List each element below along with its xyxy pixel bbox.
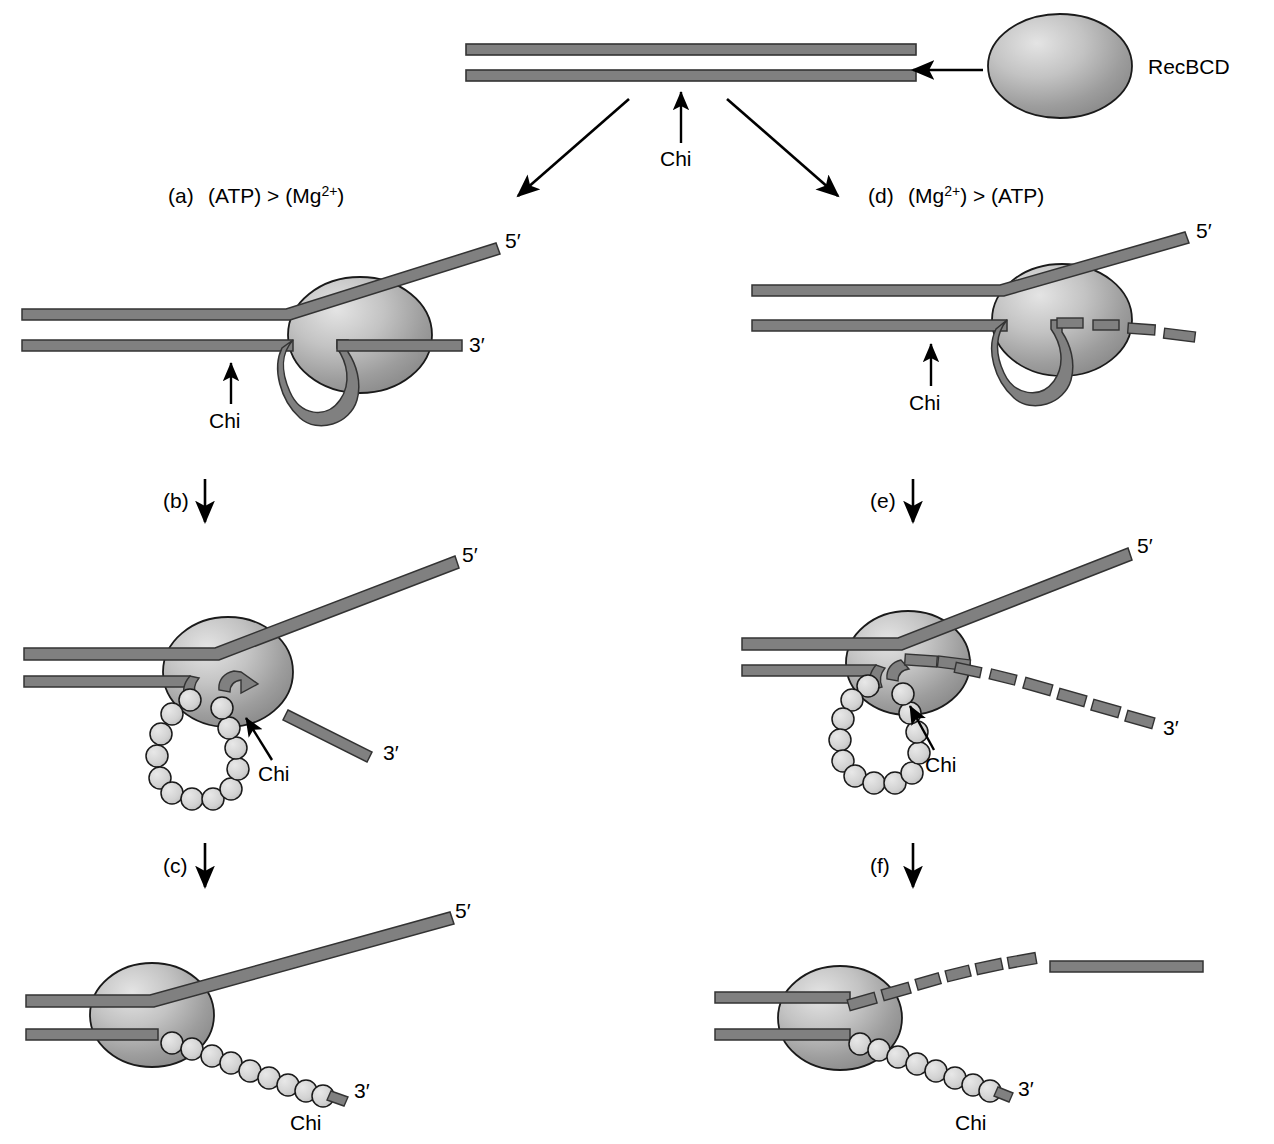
dash-seg — [975, 958, 1003, 974]
panel-e-3prime-label: 3′ — [1163, 716, 1179, 739]
panel-f-3prime-label: 3′ — [1018, 1077, 1034, 1100]
ssb-bead — [181, 788, 203, 810]
recbcd-ellipse — [988, 14, 1132, 118]
panel-a-complex — [22, 243, 500, 426]
panel-f-upper-strand-left — [715, 992, 850, 1003]
figure-canvas: RecBCD Chi (a) (ATP) > (Mg2+) 5′ 3′ Chi … — [0, 0, 1274, 1144]
dash-seg — [945, 965, 971, 981]
panel-f-label: (f) — [870, 854, 890, 877]
ssb-bead — [829, 729, 851, 751]
panel-f-lower-strand-left — [715, 1029, 850, 1040]
panel-c-label: (c) — [163, 854, 188, 877]
ssb-bead — [150, 723, 172, 745]
ssb-bead — [832, 708, 854, 730]
ssb-bead — [211, 697, 233, 719]
panel-e-lower-strand-left — [742, 665, 876, 676]
panel-e-chi-label: Chi — [925, 753, 957, 776]
panel-a-condition: (ATP) > (Mg2+) — [208, 183, 344, 207]
panel-e-degraded-three-prime — [954, 662, 1155, 728]
panel-f-ssb-bead-tail — [849, 1033, 1001, 1102]
ssb-bead — [227, 758, 249, 780]
branch-arrow-left — [518, 99, 629, 196]
panel-a-lower-strand-left — [22, 340, 293, 351]
branch-arrow-right — [727, 99, 838, 196]
panel-f-complex — [715, 953, 1203, 1102]
dash-seg — [1091, 699, 1121, 717]
panel-e-label: (e) — [870, 489, 896, 512]
dash-seg — [1093, 320, 1119, 330]
panel-d-lower-strand-left — [752, 320, 1007, 331]
panel-d-complex — [752, 232, 1195, 406]
panel-e-chi-seg-1 — [905, 654, 938, 667]
panel-c-chi-label: Chi — [290, 1111, 322, 1134]
dash-seg — [989, 669, 1017, 685]
panel-b-label: (b) — [163, 489, 189, 512]
chi-label-top: Chi — [660, 147, 692, 170]
panel-b-ssb-bead-loop — [146, 689, 249, 810]
panel-c-lower-strand-left — [26, 1029, 158, 1040]
ssb-bead — [220, 778, 242, 800]
panel-e-five-prime-strand — [742, 548, 1132, 650]
dash-seg — [1164, 328, 1196, 342]
panel-b-released-three-prime — [283, 710, 372, 762]
ssb-bead — [181, 1038, 203, 1060]
panel-d-five-prime-strand — [752, 232, 1189, 296]
panel-d-chi-label: Chi — [909, 391, 941, 414]
dash-seg — [1128, 323, 1156, 335]
ssb-bead — [901, 762, 923, 784]
ssb-bead — [161, 782, 183, 804]
panel-c-complex — [26, 912, 454, 1107]
top-duplex-dna — [466, 44, 916, 81]
panel-c-five-prime-strand — [26, 912, 454, 1007]
panel-a-prefix: (a) — [168, 184, 194, 207]
dash-seg — [1007, 953, 1036, 969]
panel-b-chi-arrow — [246, 718, 272, 760]
recbcd-label: RecBCD — [1148, 55, 1230, 78]
ssb-bead — [892, 683, 914, 705]
dash-seg — [915, 973, 941, 990]
ssb-bead — [218, 717, 240, 739]
ssb-bead — [225, 737, 247, 759]
panel-d-prefix: (d) — [868, 184, 894, 207]
dash-seg — [1057, 688, 1087, 706]
dna-strand-top-lower — [466, 70, 916, 81]
panel-f-distal-strand — [1050, 961, 1203, 972]
ssb-bead — [863, 772, 885, 794]
panel-a-3prime-label: 3′ — [469, 333, 485, 356]
panel-c-5prime-label: 5′ — [455, 899, 471, 922]
recbcd-chi-diagram: RecBCD Chi (a) (ATP) > (Mg2+) 5′ 3′ Chi … — [0, 0, 1274, 1144]
panel-b-lower-strand-left — [24, 676, 190, 687]
panel-f-chi-label: Chi — [955, 1111, 987, 1134]
ssb-bead — [161, 1032, 183, 1054]
panel-d-5prime-label: 5′ — [1196, 219, 1212, 242]
panel-a-5prime-label: 5′ — [505, 229, 521, 252]
ssb-bead — [179, 689, 201, 711]
panel-c-3prime-label: 3′ — [354, 1079, 370, 1102]
panel-b-five-prime-strand — [24, 556, 459, 660]
panel-b-chi-label: Chi — [258, 762, 290, 785]
panel-b-complex — [24, 556, 459, 810]
panel-b-5prime-label: 5′ — [462, 543, 478, 566]
dash-seg — [1057, 318, 1083, 328]
ssb-bead — [161, 703, 183, 725]
panel-a-chi-label: Chi — [209, 409, 241, 432]
panel-a-five-prime-strand — [22, 243, 500, 320]
ssb-bead — [146, 745, 168, 767]
panel-a-three-prime-strand — [337, 340, 462, 351]
panel-d-condition: (Mg2+) > (ATP) — [908, 183, 1044, 207]
panel-c-ssb-bead-tail — [161, 1032, 334, 1107]
dash-seg — [1023, 677, 1053, 695]
top-recbcd-enzyme — [913, 14, 1132, 118]
panel-b-3prime-label: 3′ — [383, 741, 399, 764]
dash-seg — [1125, 710, 1155, 728]
dna-strand-top-upper — [466, 44, 916, 55]
panel-e-5prime-label: 5′ — [1137, 534, 1153, 557]
